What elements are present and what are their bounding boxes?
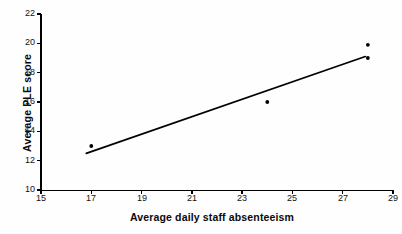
trend-line — [86, 57, 365, 154]
data-point — [366, 56, 370, 60]
data-point — [89, 144, 93, 148]
data-points — [89, 43, 369, 148]
x-tick-label-25: 25 — [277, 193, 307, 203]
y-axis-title: Average PLE score — [21, 18, 33, 188]
x-axis-title: Average daily staff absenteeism — [0, 211, 402, 223]
data-point — [366, 43, 370, 47]
data-point — [265, 100, 269, 104]
x-tick-label-23: 23 — [227, 193, 257, 203]
scatter-plot-figure: 22 20 18 16 14 12 10 15 17 19 21 23 25 2… — [0, 0, 402, 234]
y-tick-label-22: 22 — [13, 8, 35, 18]
axis-lines — [40, 14, 393, 191]
x-tick-label-17: 17 — [76, 193, 106, 203]
x-tick-label-29: 29 — [378, 193, 402, 203]
x-tick-label-15: 15 — [26, 193, 56, 203]
x-tick-label-19: 19 — [127, 193, 157, 203]
x-tick-label-27: 27 — [328, 193, 358, 203]
x-tick-label-21: 21 — [177, 193, 207, 203]
